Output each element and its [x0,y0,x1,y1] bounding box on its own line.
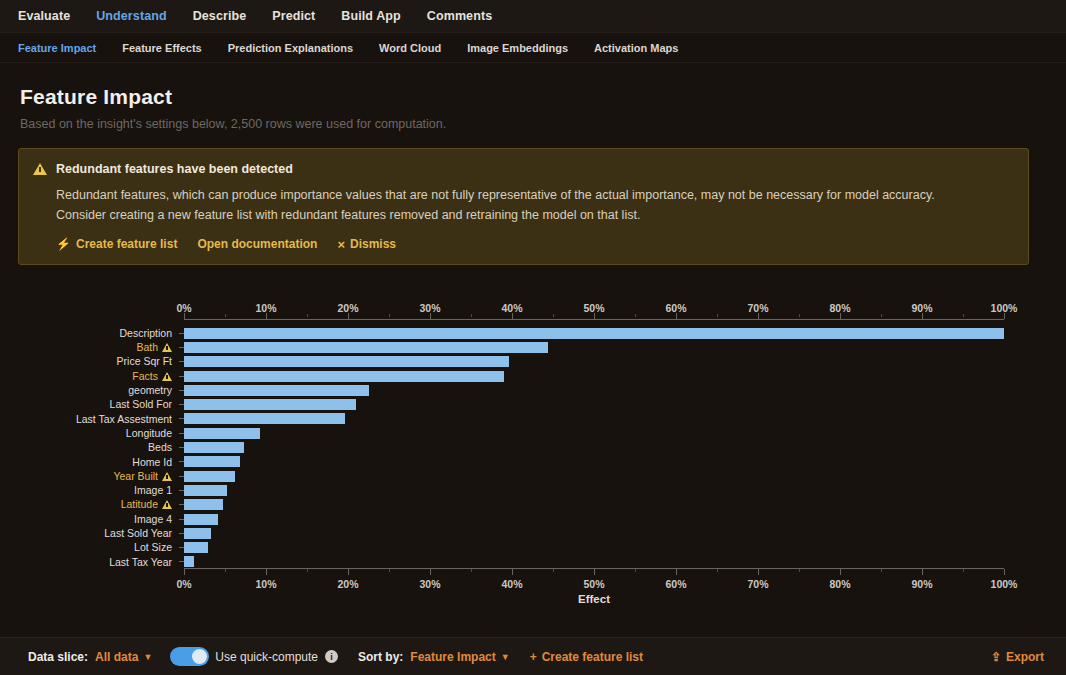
bar-label: Home Id [18,457,178,468]
chart-bar-row[interactable]: geometry [18,383,1030,397]
dismiss-label: Dismiss [350,237,396,251]
bar-label: Last Sold Year [18,528,178,539]
chart-bar-row[interactable]: Description [18,326,1030,340]
close-icon: × [337,237,345,252]
bar-label-text: Bath [136,342,158,353]
axis-tick-label-bottom: 0% [176,578,191,590]
axis-tick-label-bottom: 80% [829,578,850,590]
bar-label-text: Last Sold For [110,399,172,410]
page-subtitle: Based on the insight's settings below, 2… [20,117,1066,131]
nav-item-describe[interactable]: Describe [193,9,247,23]
nav-item-build-app[interactable]: Build App [341,9,400,23]
axis-tick [512,569,513,575]
axis-tick [922,569,923,575]
upload-icon: ⇪ [991,650,1001,664]
bar-label-text: Last Tax Assestment [76,414,172,425]
chart-bar-row[interactable]: Last Tax Year [18,555,1030,569]
chart-bar-row[interactable]: Image 4 [18,512,1030,526]
bar-label: Image 4 [18,514,178,525]
tab-image-embeddings[interactable]: Image Embeddings [467,42,568,54]
axis-tick-label-bottom: 100% [991,578,1018,590]
bar[interactable] [184,328,1004,339]
chart-bar-row[interactable]: Longitude [18,426,1030,440]
create-feature-list-link[interactable]: ⚡ Create feature list [56,237,177,251]
bar[interactable] [184,499,223,510]
chart-bar-row[interactable]: Price Sqr Ft [18,355,1030,369]
chart-bar-row[interactable]: Image 1 [18,483,1030,497]
plus-icon: + [530,650,537,664]
tab-feature-impact[interactable]: Feature Impact [18,42,96,54]
warning-triangle-icon [33,163,47,175]
tab-prediction-explanations[interactable]: Prediction Explanations [228,42,353,54]
bar[interactable] [184,385,369,396]
tab-activation-maps[interactable]: Activation Maps [594,42,678,54]
chart-bar-row[interactable]: Beds [18,440,1030,454]
sort-by-control[interactable]: Sort by: Feature Impact ▼ [358,650,510,664]
page-header: Feature Impact Based on the insight's se… [0,63,1066,131]
bar[interactable] [184,413,345,424]
axis-tick [184,569,185,575]
bar[interactable] [184,556,194,567]
axis-tick-label-top: 30% [419,302,440,314]
axis-minor-tick [799,314,800,317]
chart-bar-row[interactable]: Year Built [18,469,1030,483]
info-icon[interactable]: i [325,650,338,663]
bar-label: Last Sold For [18,399,178,410]
nav-item-understand[interactable]: Understand [96,9,166,23]
tab-feature-effects[interactable]: Feature Effects [122,42,201,54]
axis-minor-tick [717,314,718,317]
quick-compute-toggle[interactable] [170,647,209,666]
axis-minor-tick [471,314,472,317]
chart-bar-row[interactable]: Facts [18,369,1030,383]
banner-text-line-1: Redundant features, which can produce im… [33,185,1012,205]
chart-bar-row[interactable]: Lot Size [18,540,1030,554]
chart-x-axis-title: Effect [184,593,1004,605]
nav-item-predict[interactable]: Predict [272,9,315,23]
axis-minor-tick [635,314,636,317]
axis-tick [430,569,431,575]
dismiss-banner-button[interactable]: × Dismiss [337,237,396,252]
axis-tick-label-top: 10% [255,302,276,314]
sort-by-value[interactable]: Feature Impact ▼ [410,650,509,664]
chart-bar-row[interactable]: Latitude [18,498,1030,512]
bar-label-text: Latitude [121,499,158,510]
axis-minor-tick [225,569,226,572]
chart-bar-row[interactable]: Last Sold For [18,397,1030,411]
bar[interactable] [184,514,218,525]
bar[interactable] [184,456,240,467]
axis-minor-tick [881,314,882,317]
bar[interactable] [184,428,260,439]
chart-bar-row[interactable]: Last Sold Year [18,526,1030,540]
axis-tick-label-bottom: 90% [911,578,932,590]
axis-tick-label-top: 80% [829,302,850,314]
axis-minor-tick [471,569,472,572]
data-slice-control[interactable]: Data slice: All data ▼ [28,650,152,664]
axis-tick [1004,569,1005,575]
export-label: Export [1006,650,1044,664]
axis-tick [594,569,595,575]
bar[interactable] [184,471,235,482]
tab-word-cloud[interactable]: Word Cloud [379,42,441,54]
open-documentation-link[interactable]: Open documentation [197,237,317,251]
axis-tick-label-bottom: 30% [419,578,440,590]
bar[interactable] [184,442,244,453]
nav-item-comments[interactable]: Comments [427,9,492,23]
chart-bar-row[interactable]: Last Tax Assestment [18,412,1030,426]
bar[interactable] [184,356,509,367]
bar[interactable] [184,399,356,410]
bar[interactable] [184,342,548,353]
chart-bar-row[interactable]: Home Id [18,455,1030,469]
axis-minor-tick [635,569,636,572]
bar[interactable] [184,371,504,382]
nav-item-evaluate[interactable]: Evaluate [18,9,70,23]
bar[interactable] [184,528,211,539]
bar-label-text: Image 1 [134,485,172,496]
export-button[interactable]: ⇪ Export [991,650,1044,664]
chart-bar-row[interactable]: Bath [18,340,1030,354]
create-feature-list-button[interactable]: + Create feature list [530,650,643,664]
bar[interactable] [184,542,208,553]
data-slice-value[interactable]: All data ▼ [95,650,152,664]
axis-tick-label-bottom: 20% [337,578,358,590]
bar[interactable] [184,485,227,496]
data-slice-value-text: All data [95,650,138,664]
